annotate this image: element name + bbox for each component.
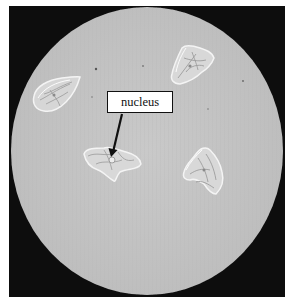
nucleus-label-text: nucleus — [121, 95, 159, 110]
microscope-field — [0, 0, 298, 307]
nucleus — [109, 157, 115, 163]
nucleus-label: nucleus — [107, 91, 173, 113]
